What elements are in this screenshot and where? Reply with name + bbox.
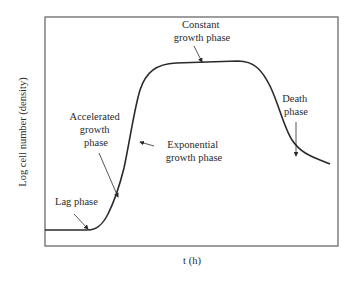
lag-phase-arrow	[74, 214, 88, 229]
accelerated-phase-label: Accelerated growth phase	[70, 111, 123, 148]
growth-curve-diagram: Lag phase Accelerated growth phase Expon…	[0, 0, 355, 282]
accelerated-phase-arrow	[99, 153, 118, 197]
exponential-phase-arrow	[140, 142, 154, 146]
exponential-phase-label: Exponential growth phase	[166, 139, 223, 163]
x-axis-label: t (h)	[183, 255, 201, 267]
constant-phase-label: Constant growth phase	[174, 19, 231, 43]
lag-phase-label: Lag phase	[55, 196, 98, 207]
constant-phase-arrow	[194, 46, 202, 62]
y-axis-label: Log cell number (density)	[17, 77, 29, 187]
death-phase-label: Death phase	[282, 93, 310, 117]
